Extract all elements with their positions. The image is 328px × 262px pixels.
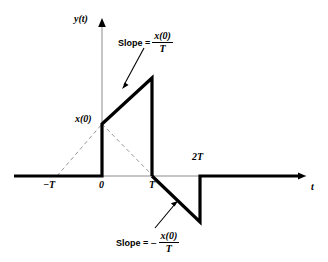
t-axis-label: t	[311, 182, 314, 192]
annotation-positive-slope-denominator: T	[158, 43, 168, 54]
annotation-negative-slope-denominator: T	[164, 243, 174, 254]
signal-waveform-figure: y(t) t −T 0 T 2T x(0) Slope = x(0) T Slo…	[0, 0, 328, 262]
construction-line-left	[57, 124, 102, 176]
leader-arrowhead-positive-slope	[122, 83, 129, 89]
annotation-negative-slope-fraction: x(0) T	[159, 231, 180, 254]
amplitude-label-x0: x(0)	[75, 114, 92, 124]
annotation-positive-slope: Slope = x(0) T	[118, 31, 173, 54]
leader-line-negative-slope	[155, 204, 175, 228]
tick-label-neg-t: −T	[43, 180, 55, 190]
waveform-trace-positive	[14, 78, 152, 176]
tick-label-t: T	[149, 180, 155, 190]
y-axis-label: y(t)	[74, 14, 88, 24]
annotation-positive-slope-numerator: x(0)	[152, 31, 173, 42]
y-axis-arrowhead	[98, 18, 106, 27]
leader-arrowhead-negative-slope	[171, 201, 178, 206]
annotation-positive-slope-text: Slope =	[118, 38, 150, 48]
annotation-positive-slope-fraction: x(0) T	[152, 31, 173, 54]
annotation-negative-slope: Slope = − x(0) T	[116, 231, 179, 254]
construction-line-right	[102, 124, 153, 176]
waveform-trace-negative	[152, 176, 302, 222]
tick-label-two-t: 2T	[192, 152, 203, 162]
annotation-negative-slope-numerator: x(0)	[159, 231, 180, 242]
annotation-negative-slope-sign: −	[150, 237, 156, 249]
annotation-negative-slope-text: Slope =	[116, 238, 148, 248]
tick-label-zero: 0	[99, 180, 104, 190]
